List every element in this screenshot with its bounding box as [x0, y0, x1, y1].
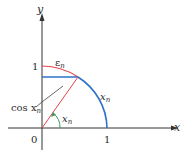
y-axis-label: y	[36, 3, 44, 16]
x-axis	[8, 126, 178, 131]
angle-label: xn	[62, 113, 73, 126]
blue-arc-xn	[78, 77, 107, 128]
x-axis-label: x	[174, 121, 181, 134]
angle-subscript: n	[68, 118, 73, 126]
cos-leader-line	[42, 86, 63, 102]
arc-label: xn	[100, 91, 111, 104]
unit-circle-diagram: y x 0 1 1 εn xn xn cos xn	[0, 0, 184, 155]
cos-subscript: n	[37, 107, 42, 115]
origin-label: 0	[31, 134, 37, 145]
y-tick-label-1: 1	[32, 61, 38, 72]
x-tick-label-1: 1	[104, 134, 110, 145]
arc-subscript: n	[106, 96, 111, 104]
cos-text: cos x	[11, 102, 37, 113]
y-axis	[40, 13, 45, 150]
epsilon-subscript: n	[60, 62, 65, 70]
radius-line	[42, 77, 78, 128]
cos-label: cos xn	[11, 102, 42, 115]
